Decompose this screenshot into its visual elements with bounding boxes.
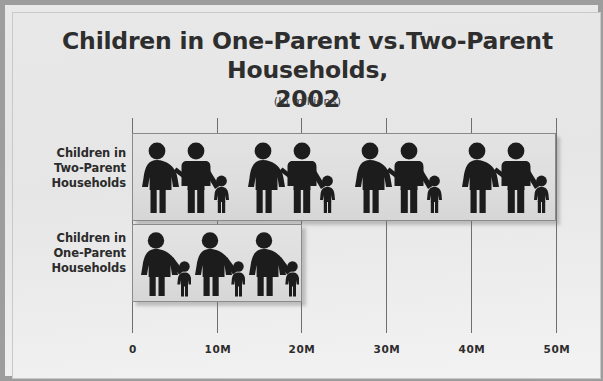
pictogram-group-one-parent-2 xyxy=(193,231,245,297)
pictogram-group-two-parent-3 xyxy=(353,141,445,215)
xtick-label-50: 50M xyxy=(537,343,577,355)
xtick-label-0: 0 xyxy=(113,343,153,355)
plot-area: 0 10M 20M 30M 40M 50M Children in Two-Pa… xyxy=(13,13,601,379)
xtick-label-20: 20M xyxy=(282,343,322,355)
pictogram-group-two-parent-4 xyxy=(460,141,552,215)
pictogram-group-two-parent-1 xyxy=(140,141,232,215)
xtick-label-10: 10M xyxy=(198,343,238,355)
pictogram-group-two-parent-2 xyxy=(246,141,338,215)
xtick-label-30: 30M xyxy=(367,343,407,355)
xtick-label-40: 40M xyxy=(452,343,492,355)
row-label-two-parent: Children in Two-Parent Households xyxy=(31,146,126,191)
pictogram-group-one-parent-3 xyxy=(247,231,299,297)
chart-frame: Children in One-Parent vs.Two-Parent Hou… xyxy=(0,0,603,381)
pictogram-group-one-parent-1 xyxy=(139,231,191,297)
row-label-one-parent: Children in One-Parent Households xyxy=(31,231,126,276)
chart-panel: Children in One-Parent vs.Two-Parent Hou… xyxy=(12,12,601,379)
gridline-50 xyxy=(556,118,557,333)
